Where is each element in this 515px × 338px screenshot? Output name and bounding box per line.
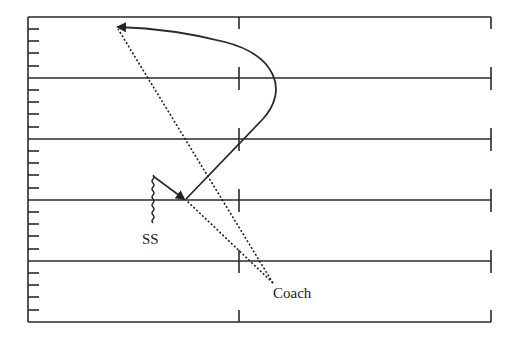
coach-label: Coach [273, 285, 312, 301]
yard-ticks [28, 29, 39, 310]
yard-lines [28, 67, 491, 273]
field [28, 17, 491, 322]
ss-break-arrow [153, 176, 184, 199]
play-diagram: SS Coach [0, 0, 515, 338]
coach-pass-short-dotted [186, 200, 273, 283]
route-curve-arrow [118, 27, 276, 199]
ss-label: SS [142, 231, 159, 247]
ss-backpedal-wavy [152, 175, 154, 223]
